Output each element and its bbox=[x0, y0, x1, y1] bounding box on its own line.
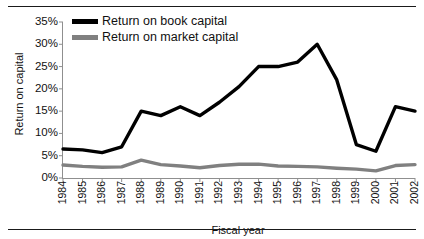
bottom-divider-rule bbox=[8, 229, 416, 230]
y-tick-label: 35% bbox=[22, 16, 58, 28]
x-tick-label: 1991 bbox=[194, 181, 205, 204]
x-tick-label: 1996 bbox=[292, 181, 303, 204]
y-tick-label: 5% bbox=[22, 150, 58, 162]
x-axis-title: Fiscal year bbox=[62, 224, 414, 236]
x-tick-label: 1995 bbox=[272, 181, 283, 204]
x-tick-label: 1994 bbox=[253, 181, 264, 204]
x-tick-label: 2000 bbox=[370, 181, 381, 204]
y-tick-label: 30% bbox=[22, 39, 58, 51]
y-axis-tick-labels: 0%5%10%15%20%25%30%35% bbox=[22, 10, 58, 180]
x-tick-label: 2001 bbox=[389, 181, 400, 204]
x-tick-label: 1986 bbox=[96, 181, 107, 204]
chart-figure: Return on capital 0%5%10%15%20%25%30%35%… bbox=[0, 0, 424, 239]
x-tick-label: 1998 bbox=[331, 181, 342, 204]
x-tick-label: 1999 bbox=[350, 181, 361, 204]
legend-swatch bbox=[72, 19, 98, 24]
legend-item: Return on book capital bbox=[72, 14, 238, 29]
plot-wrapper: Return on capital 0%5%10%15%20%25%30%35%… bbox=[0, 10, 424, 220]
legend-label: Return on book capital bbox=[102, 15, 227, 28]
y-tick-label: 20% bbox=[22, 83, 58, 95]
x-axis-tick-labels: 1984198519861987198819891990199119921993… bbox=[62, 181, 414, 223]
x-tick-label: 1988 bbox=[135, 181, 146, 204]
legend-swatch bbox=[72, 35, 98, 40]
x-tick-label: 1990 bbox=[174, 181, 185, 204]
chart-legend: Return on book capitalReturn on market c… bbox=[72, 14, 238, 46]
data-series-group bbox=[63, 44, 415, 171]
top-divider-rule bbox=[8, 6, 416, 7]
x-tick-label: 1984 bbox=[57, 181, 68, 204]
y-axis-tick-marks bbox=[59, 22, 63, 178]
x-tick-label: 1987 bbox=[116, 181, 127, 204]
series-line bbox=[63, 44, 415, 152]
x-tick-label: 2002 bbox=[409, 181, 420, 204]
x-tick-label: 1985 bbox=[77, 181, 88, 204]
y-tick-label: 15% bbox=[22, 105, 58, 117]
x-tick-label: 1997 bbox=[311, 181, 322, 204]
y-tick-label: 25% bbox=[22, 61, 58, 73]
legend-label: Return on market capital bbox=[102, 31, 238, 44]
x-tick-label: 1989 bbox=[155, 181, 166, 204]
legend-item: Return on market capital bbox=[72, 30, 238, 45]
y-tick-label: 10% bbox=[22, 128, 58, 140]
x-tick-label: 1993 bbox=[233, 181, 244, 204]
x-tick-label: 1992 bbox=[213, 181, 224, 204]
series-line bbox=[63, 160, 415, 171]
y-tick-label: 0% bbox=[22, 172, 58, 184]
